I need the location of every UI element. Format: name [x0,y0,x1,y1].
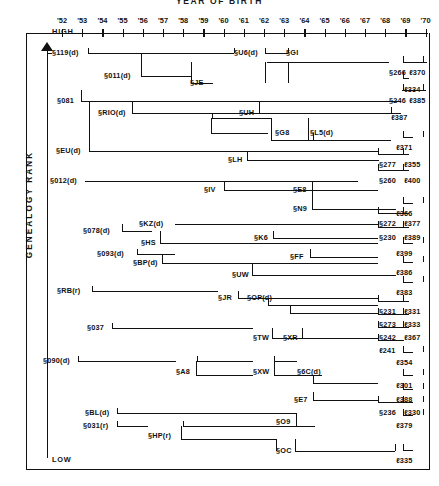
connector-horizontal [122,231,152,232]
connector-vertical [183,421,184,426]
connector-horizontal [117,413,296,414]
pedigree-node-n62: ℓ301 [396,381,413,390]
pedigree-node-n43: §RB(r) [57,286,81,295]
connector-vertical [403,369,404,375]
connector-horizontal [162,263,378,264]
x-tick-label: '70 [421,16,431,25]
connector-vertical [211,118,212,133]
connector-horizontal [197,361,253,362]
connector-vertical [378,295,379,301]
connector-vertical [271,118,272,140]
connector-vertical [423,56,424,62]
x-tick-mark [143,29,144,37]
connector-vertical [295,439,296,451]
connector-vertical [92,286,93,291]
pedigree-node-n65: §BL(d) [85,408,109,417]
chart-title: YEAR OF BIRTH [0,0,439,6]
pedigree-node-n30: §KZ(d) [139,219,163,228]
pedigree-node-n71: ℓ379 [396,421,413,430]
connector-vertical [117,421,118,426]
pedigree-node-n73: ℓ335 [396,456,413,465]
connector-vertical [122,224,123,231]
connector-horizontal [175,224,378,225]
connector-vertical [308,118,309,140]
connector-horizontal [181,439,276,440]
x-tick-label: '61 [239,16,249,25]
pedigree-node-n50: ℓ333 [404,320,421,329]
pedigree-node-n32: §K6 [254,233,268,242]
pedigree-node-n58: §A8 [176,367,190,376]
connector-vertical [212,113,213,118]
connector-horizontal [295,426,315,427]
x-tick-label: '64 [299,16,309,25]
pedigree-node-n2: §U6(d) [234,48,258,57]
genealogy-pedigree-chart: YEAR OF BIRTH '52'53'54'55'56'57'58'59'6… [0,0,439,486]
connector-horizontal [302,338,378,339]
connector-vertical [238,291,239,298]
connector-vertical [423,383,424,389]
connector-vertical [313,375,314,383]
pedigree-node-n6: §266 [389,68,406,77]
connector-vertical [78,356,79,361]
pedigree-node-n37: §093(d) [97,249,124,258]
pedigree-node-n10: §RIO(d) [98,108,126,117]
connector-vertical [378,207,379,213]
connector-vertical [310,249,311,257]
pedigree-node-n72: §OC [276,446,292,455]
connector-vertical [197,356,198,361]
connector-horizontal [112,328,253,329]
pedigree-node-n67: §236 [379,408,396,417]
connector-vertical [429,444,430,451]
connector-horizontal [313,400,378,401]
connector-vertical [259,101,260,113]
x-tick-label: '58 [178,16,188,25]
pedigree-node-n20: §277 [379,160,396,169]
connector-horizontal [271,140,391,141]
x-tick-label: '53 [77,16,87,25]
x-tick-label: '66 [340,16,350,25]
connector-horizontal [308,140,330,141]
pedigree-node-n46: ℓ383 [396,288,413,297]
pedigree-node-n40: ℓ399 [396,249,413,258]
connector-vertical [403,444,404,450]
connector-horizontal [137,254,175,255]
x-tick-mark [224,29,225,37]
pedigree-node-n28: ℓ366 [396,209,413,218]
connector-vertical [423,276,424,282]
x-tick-label: '57 [158,16,168,25]
pedigree-node-n49: §273 [379,320,396,329]
connector-horizontal [403,243,413,244]
x-tick-mark [325,29,326,37]
connector-vertical [423,396,424,402]
connector-vertical [265,62,266,83]
pedigree-node-n55: ℓ367 [404,333,421,342]
connector-horizontal [403,262,413,263]
pedigree-node-n44: §JR [218,293,232,302]
pedigree-node-n4: §011(d) [104,71,131,80]
pedigree-node-n60: §6C(d) [297,367,321,376]
connector-vertical [162,254,163,263]
pedigree-node-n3: §GI [286,48,298,57]
pedigree-node-n18: §LH [228,155,242,164]
connector-horizontal [160,243,378,244]
connector-vertical [403,56,404,62]
pedigree-node-n47: §231 [379,307,396,316]
connector-horizontal [88,53,234,54]
pedigree-node-n57: §090(d) [43,356,70,365]
connector-horizontal [89,151,378,152]
x-tick-label: '59 [198,16,208,25]
connector-horizontal [295,451,395,452]
frame-bottom-border [26,469,430,470]
connector-vertical [273,231,274,238]
connector-horizontal [117,426,148,427]
pedigree-node-n64: ℓ388 [396,395,413,404]
connector-horizontal [290,313,378,314]
x-tick-mark [426,29,427,37]
x-tick-mark [123,29,124,37]
pedigree-node-n68: ℓ330 [404,408,421,417]
connector-vertical [312,190,313,209]
connector-horizontal [92,291,218,292]
x-tick-label: '52 [57,16,67,25]
connector-horizontal [183,426,296,427]
connector-vertical [141,53,142,76]
